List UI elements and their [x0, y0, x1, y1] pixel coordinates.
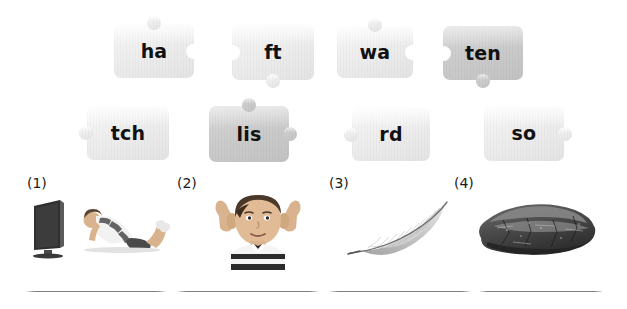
socket-left-icon [436, 46, 451, 61]
feather-icon [348, 202, 447, 255]
puzzle-piece-so[interactable]: so [484, 106, 564, 161]
boy-listening-icon [215, 195, 300, 270]
knob-bottom-icon [266, 74, 280, 88]
puzzle-piece-label: rd [379, 125, 402, 144]
puzzle-piece-label: ft [264, 43, 282, 62]
worksheet-page: ha ft wa ten tch lis rd so (1) (2) (3) (… [0, 0, 627, 309]
puzzle-piece-lis[interactable]: lis [209, 106, 289, 162]
girl-lying-icon [84, 209, 171, 253]
puzzle-piece-label: wa [360, 43, 391, 62]
puzzle-piece-label: so [512, 124, 537, 143]
picture-girl-watching-tv [26, 196, 172, 266]
puzzle-piece-rd[interactable]: rd [352, 108, 430, 161]
answer-line-3[interactable] [330, 291, 470, 292]
puzzle-piece-label: tch [111, 124, 145, 143]
puzzle-piece-label: ha [141, 42, 168, 61]
puzzle-piece-ten[interactable]: ten [443, 26, 523, 80]
knob-top-icon [147, 16, 161, 30]
answer-line-1[interactable] [27, 291, 165, 292]
knob-top-icon [242, 98, 256, 112]
socket-left-icon [225, 45, 240, 60]
picture-rock [469, 198, 599, 260]
item-number-2: (2) [177, 175, 197, 191]
answer-line-2[interactable] [178, 291, 318, 292]
knob-left-icon [79, 126, 93, 140]
item-number-1: (1) [27, 175, 47, 191]
picture-feather [346, 196, 466, 268]
puzzle-piece-ha[interactable]: ha [114, 24, 194, 78]
knob-right-icon [283, 127, 297, 141]
puzzle-piece-wa[interactable]: wa [337, 26, 413, 78]
item-number-4: (4) [454, 175, 474, 191]
puzzle-piece-label: lis [237, 125, 262, 144]
picture-boy-cupping-ears [205, 188, 311, 270]
knob-top-icon [368, 18, 382, 32]
socket-right-icon [186, 44, 201, 59]
knob-left-icon [344, 128, 358, 142]
puzzle-piece-label: ten [465, 44, 501, 63]
rock-icon [479, 204, 595, 255]
puzzle-piece-tch[interactable]: tch [87, 106, 169, 160]
puzzle-piece-ft[interactable]: ft [232, 24, 314, 80]
television-icon [33, 200, 64, 259]
item-number-3: (3) [329, 175, 349, 191]
knob-right-icon [558, 127, 572, 141]
knob-bottom-icon [476, 74, 490, 88]
socket-right-icon [405, 45, 420, 60]
answer-line-4[interactable] [480, 291, 602, 292]
